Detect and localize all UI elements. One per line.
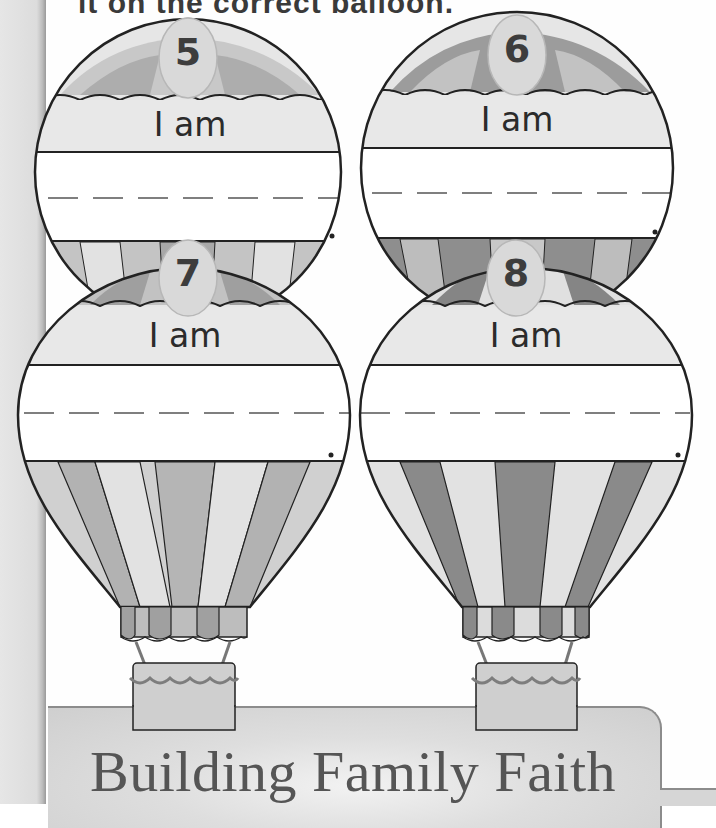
balloon-6-number: 6 — [487, 27, 547, 71]
balloon-8-skirt — [463, 607, 589, 641]
balloon-8-answer-field[interactable] — [366, 368, 686, 458]
balloon-7-answer-field[interactable] — [24, 368, 344, 458]
balloon-5-answer-field[interactable] — [48, 155, 338, 239]
balloon-5-prompt: I am — [130, 105, 250, 144]
footer-banner-tail — [660, 788, 716, 806]
balloon-6-prompt: I am — [457, 100, 577, 139]
balloon-7-prompt: I am — [125, 316, 245, 355]
balloon-7-number: 7 — [158, 251, 218, 295]
balloon-8-number: 8 — [486, 251, 546, 295]
balloon-7-skirt — [121, 607, 247, 641]
balloon-8-prompt: I am — [466, 316, 586, 355]
balloon-5-number: 5 — [158, 30, 218, 74]
balloon-6-answer-field[interactable] — [372, 151, 667, 236]
footer-banner-title: Building Family Faith — [90, 738, 616, 805]
